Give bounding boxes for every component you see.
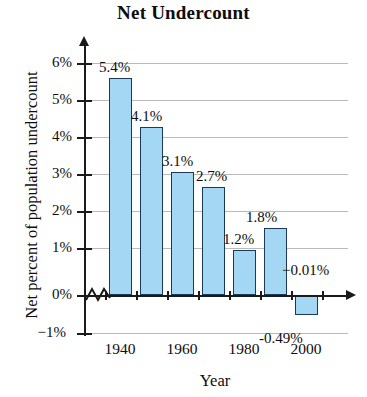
y-tick-label-1: 1% xyxy=(28,239,72,256)
x-tick-6 xyxy=(291,291,293,300)
bar-label-1990: 1.8% xyxy=(246,209,277,226)
bar-1950 xyxy=(140,127,163,295)
x-tick-7 xyxy=(322,291,324,300)
y-tick-label-2: 2% xyxy=(28,202,72,219)
bar-label-1960: 3.1% xyxy=(162,153,193,170)
y-tick-5 xyxy=(77,100,92,102)
y-tick-label-6: 6% xyxy=(28,54,72,71)
y-tick-label-minus1: −1% xyxy=(22,324,66,341)
bar-label-2010-annotation: −0.01% xyxy=(282,262,329,279)
x-tick-label-1980: 1980 xyxy=(214,340,274,358)
gridline-minus1 xyxy=(84,333,348,334)
bar-2000 xyxy=(295,296,318,315)
x-tick-label-1960: 1960 xyxy=(152,340,212,358)
x-axis-line xyxy=(84,295,348,297)
x-tick-4 xyxy=(229,291,231,300)
plot-area: 5.4% 4.1% 3.1% 2.7% 1.2% 1.8% -0.49% −0.… xyxy=(0,0,367,397)
x-tick-1 xyxy=(136,291,138,300)
y-tick-4 xyxy=(77,137,92,139)
bar-1960 xyxy=(171,172,194,295)
x-tick-label-2000: 2000 xyxy=(276,340,336,358)
bar-1980 xyxy=(233,250,256,295)
y-tick-label-0: 0% xyxy=(28,286,72,303)
y-axis-arrow xyxy=(79,36,89,46)
x-axis-arrow xyxy=(346,290,356,300)
y-tick-minus1 xyxy=(77,333,92,335)
bar-label-1970: 2.7% xyxy=(196,168,227,185)
y-tick-2 xyxy=(77,211,92,213)
bar-label-1940: 5.4% xyxy=(99,59,130,76)
y-tick-label-5: 5% xyxy=(28,91,72,108)
y-tick-3 xyxy=(77,174,92,176)
bar-1970 xyxy=(202,187,225,295)
bar-label-1950: 4.1% xyxy=(131,108,162,125)
y-tick-1 xyxy=(77,248,92,250)
x-tick-3 xyxy=(198,291,200,300)
y-tick-6 xyxy=(77,63,92,65)
x-tick-0 xyxy=(105,291,107,300)
bar-label-1980: 1.2% xyxy=(223,231,254,248)
net-undercount-chart: Net Undercount Net percent of population… xyxy=(0,0,367,397)
x-tick-label-1940: 1940 xyxy=(90,340,150,358)
x-tick-2 xyxy=(167,291,169,300)
bar-1940 xyxy=(109,78,132,295)
y-tick-label-3: 3% xyxy=(28,165,72,182)
x-tick-5 xyxy=(260,291,262,300)
y-tick-label-4: 4% xyxy=(28,128,72,145)
axis-break-icon xyxy=(86,284,112,304)
